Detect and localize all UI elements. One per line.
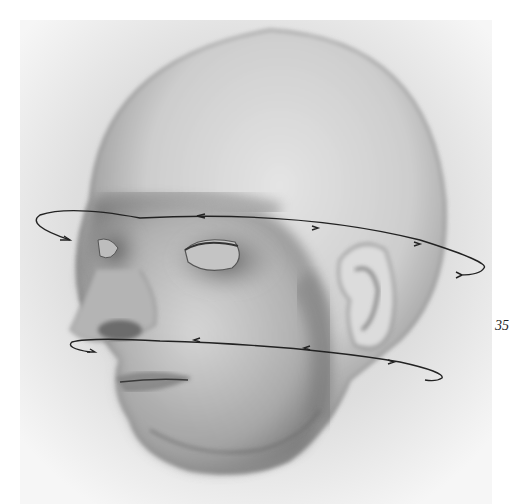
page-number: 35 (495, 318, 509, 334)
head-illustration (20, 20, 492, 504)
